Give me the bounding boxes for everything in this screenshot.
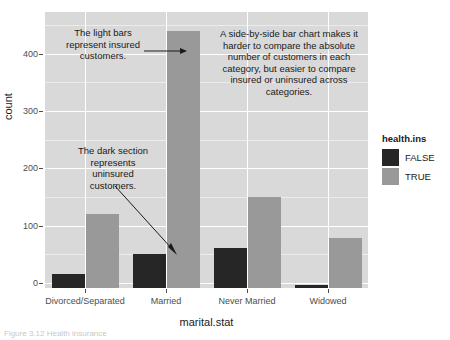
y-tick-label-200: 200 <box>23 163 38 173</box>
y-tick-mark <box>39 111 43 112</box>
figure-caption: Figure 3.12 Health insurance <box>4 329 107 338</box>
y-tick-mark <box>39 54 43 55</box>
y-axis-ticks: 400 300 200 100 0 <box>0 0 38 340</box>
bar-divorced-separated-false <box>52 274 85 288</box>
gridline-minor <box>45 140 368 141</box>
bar-widowed-false <box>295 285 328 288</box>
x-axis-title: marital.stat <box>45 316 368 328</box>
legend-key-true <box>382 168 399 185</box>
annotation-light-bars-arrow <box>142 45 188 57</box>
gridline-major <box>45 111 368 112</box>
x-tick-label-widowed: Widowed <box>309 296 346 306</box>
x-tick-label-never-married: Never Married <box>218 296 275 306</box>
legend-title: health.ins <box>382 133 450 144</box>
y-tick-mark <box>39 226 43 227</box>
legend-item-true[interactable]: TRUE <box>382 167 450 186</box>
legend-label-false: FALSE <box>405 152 435 163</box>
y-tick-label-0: 0 <box>33 278 38 288</box>
bar-widowed-true <box>329 238 362 288</box>
gridline-minor <box>45 25 368 26</box>
x-tick-label-divorced-separated: Divorced/Separated <box>45 296 125 306</box>
bar-never-married-false <box>214 248 247 288</box>
legend-label-true: TRUE <box>405 171 431 182</box>
x-tick-mark <box>85 289 86 293</box>
x-tick-mark <box>328 289 329 293</box>
annotation-dark-section-arrow <box>113 184 183 260</box>
x-tick-label-married: Married <box>151 296 182 306</box>
legend: health.ins FALSE TRUE <box>382 133 450 186</box>
legend-item-false[interactable]: FALSE <box>382 148 450 167</box>
x-tick-mark <box>166 289 167 293</box>
y-tick-label-100: 100 <box>23 221 38 231</box>
y-tick-mark <box>39 283 43 284</box>
annotation-side-by-side: A side-by-side bar chart makes it harder… <box>213 28 365 97</box>
y-tick-mark <box>39 168 43 169</box>
legend-key-false <box>382 149 399 166</box>
y-tick-label-400: 400 <box>23 49 38 59</box>
x-tick-mark <box>247 289 248 293</box>
figure-bar-chart: count 400 300 200 100 0 <box>0 0 450 340</box>
annotation-light-bars: The light bars represent insured custome… <box>62 27 144 62</box>
y-tick-label-300: 300 <box>23 106 38 116</box>
gridline-minor <box>45 197 368 198</box>
bar-never-married-true <box>248 197 281 288</box>
